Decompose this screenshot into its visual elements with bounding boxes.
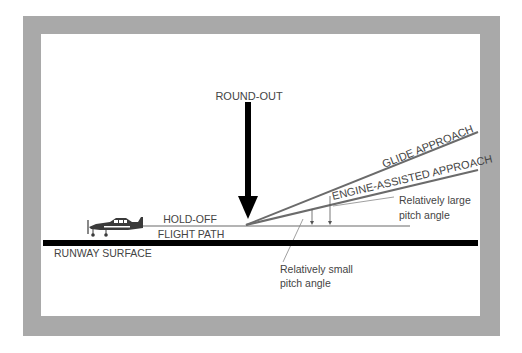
large-pitch-angle-arrow-icon [328,196,332,225]
round-out-arrow-icon [238,102,258,219]
landing-diagram: ROUND-OUT GLIDE APPROACH ENGINE-ASSISTED… [0,0,522,353]
small-angle-label-line1: Relatively small [280,263,353,275]
large-angle-label-line1: Relatively large [399,194,471,206]
flight-path-label: FLIGHT PATH [158,228,225,240]
round-out-label: ROUND-OUT [215,90,282,102]
small-pitch-angle-arrow-icon [310,209,314,225]
hold-off-label: HOLD-OFF [163,213,217,225]
large-angle-label-line2: pitch angle [399,209,450,221]
small-angle-label-line2: pitch angle [280,277,331,289]
runway-surface-bar [43,240,478,246]
airplane-icon [88,217,143,237]
runway-surface-label: RUNWAY SURFACE [54,247,152,259]
